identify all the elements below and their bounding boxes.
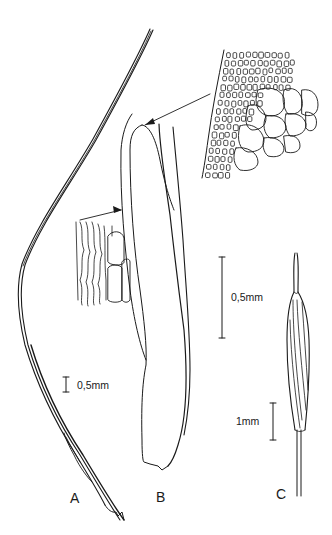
scale-bar-a: 0,5mm	[63, 377, 109, 392]
areolation-cell	[220, 92, 224, 97]
areolation-cell	[220, 125, 224, 130]
areolation-cell	[232, 101, 236, 107]
areolation-cell	[235, 77, 239, 83]
areolation-cell	[269, 68, 273, 73]
areolation-cell	[290, 60, 294, 65]
areolation-cell	[274, 77, 278, 83]
areolation-cell	[258, 101, 263, 107]
areolation-cell	[228, 85, 232, 91]
areolation-cell	[221, 157, 225, 162]
areolation-cell	[220, 133, 224, 139]
areolation-cell	[241, 116, 245, 121]
areolation-cell	[213, 173, 218, 178]
areolation-cell	[224, 109, 228, 114]
areolation-cell	[247, 85, 252, 91]
areolation-cell	[268, 77, 272, 83]
areolation-cell	[233, 92, 237, 97]
areolation-cell	[207, 165, 212, 170]
areolation-cell	[248, 117, 252, 122]
areolation-cell	[230, 109, 234, 114]
areolation-cell	[243, 69, 247, 74]
areolation-cell	[228, 157, 232, 163]
inset-upper-cells	[202, 50, 318, 178]
areolation-cell	[215, 157, 219, 163]
areolation-cell	[217, 109, 221, 115]
areolation-cell	[231, 61, 235, 66]
areolation-cell	[279, 85, 283, 91]
areolation-cell	[218, 100, 222, 105]
panel-label-c: C	[276, 486, 286, 502]
areolation-cell	[209, 148, 213, 153]
areolation-cell	[286, 85, 290, 90]
areolation-cell	[233, 125, 238, 131]
areolation-cell	[272, 53, 276, 58]
areolation-cell	[218, 173, 223, 179]
areolation-cell	[281, 77, 286, 83]
areolation-cell	[224, 69, 228, 75]
areolation-cell	[233, 53, 237, 59]
panel-b-leaf-base	[121, 114, 190, 470]
areolation-cell	[246, 93, 251, 98]
areolation-cell	[265, 53, 270, 58]
arrow-upper	[145, 94, 210, 125]
areolation-cell	[288, 68, 292, 73]
areolation-cell	[258, 60, 262, 65]
areolation-cell	[225, 101, 229, 107]
areolation-cell	[217, 140, 221, 145]
areolation-cell	[227, 93, 231, 98]
areolation-cell	[253, 84, 257, 90]
scale-bar-a-label: 0,5mm	[77, 379, 109, 391]
areolation-cell	[235, 117, 239, 122]
areolation-cell	[206, 173, 211, 178]
areolation-cell	[277, 61, 282, 67]
areolation-cell	[237, 69, 241, 75]
panel-label-a: A	[70, 490, 80, 506]
areolation-cell	[213, 164, 217, 169]
scale-bar-c-label: 1mm	[236, 415, 260, 427]
areolation-cell	[242, 77, 246, 83]
panel-c-capsule	[287, 253, 309, 496]
areolation-cell	[225, 60, 229, 66]
areolation-cell	[232, 132, 236, 138]
areolation-cell	[285, 52, 289, 58]
areolation-cell	[258, 93, 263, 98]
areolation-cell	[228, 116, 232, 122]
areolation-cell	[284, 61, 289, 67]
areolation-cell	[282, 68, 286, 73]
areolation-cell	[224, 140, 228, 145]
areolation-cell	[263, 69, 267, 75]
areolation-cell	[223, 149, 227, 154]
areolation-cell	[238, 61, 243, 67]
areolation-cell	[230, 149, 234, 155]
areolation-cell	[251, 61, 255, 67]
areolation-cell	[244, 60, 248, 65]
areolation-cell	[211, 140, 215, 146]
areolation-cell	[278, 53, 282, 58]
areolation-cell	[227, 124, 231, 129]
scale-bar-b-label: 0,5mm	[231, 291, 263, 303]
areolation-cell	[276, 69, 281, 74]
areolation-cell	[244, 101, 248, 107]
areolation-cell	[226, 173, 230, 179]
areolation-cell	[253, 52, 257, 57]
areolation-cell	[249, 77, 253, 82]
panel-a-leaf	[18, 29, 153, 520]
scale-bar-b: 0,5mm	[219, 257, 263, 338]
areolation-cell	[234, 84, 239, 89]
areolation-cell	[287, 77, 292, 82]
areolation-cell	[246, 52, 250, 57]
areolation-cell	[241, 85, 246, 91]
areolation-cell	[226, 165, 230, 171]
areolation-cell	[230, 69, 234, 74]
areolation-cell	[256, 68, 260, 74]
areolation-cell	[220, 164, 224, 169]
areolation-cell	[254, 77, 258, 82]
areolation-cell	[239, 92, 243, 98]
areolation-cell	[252, 92, 256, 97]
areolation-cell	[237, 109, 241, 114]
botanical-figure: 0,5mm 0,5mm 1mm A B C	[0, 0, 332, 535]
areolation-cell	[264, 61, 268, 66]
areolation-cell	[270, 60, 275, 65]
arrow-lower	[80, 206, 122, 220]
areolation-cell	[212, 132, 217, 138]
